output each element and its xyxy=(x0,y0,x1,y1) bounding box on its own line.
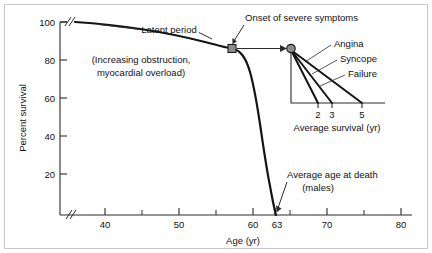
mechanism-note-line1: (Increasing obstruction, xyxy=(92,54,191,65)
y-tick-label-40: 40 xyxy=(44,131,55,142)
latent-period-label: Latent period xyxy=(141,24,196,35)
y-axis-title: Percent survival xyxy=(17,84,28,152)
y-axis-ticks xyxy=(60,22,67,174)
inset-tick-label-5: 5 xyxy=(359,109,364,120)
inset-label-angina: Angina xyxy=(334,38,364,49)
inset-origin-dot xyxy=(287,44,295,52)
inset-label-syncope: Syncope xyxy=(340,53,377,64)
onset-to-inset-connector xyxy=(237,45,287,52)
x-axis-ticks xyxy=(105,208,401,215)
y-tick-label-20: 20 xyxy=(44,169,55,180)
y-tick-label-100: 100 xyxy=(39,17,55,28)
inset-tick-label-2: 2 xyxy=(315,109,320,120)
inset-ray-failure xyxy=(291,50,318,103)
x-tick-label-50: 50 xyxy=(174,219,185,230)
mechanism-note-line2: myocardial overload) xyxy=(97,67,185,78)
average-age-death-arrow xyxy=(276,182,287,212)
inset-tick-label-3: 3 xyxy=(329,109,334,120)
survival-curve xyxy=(75,22,276,215)
x-tick-label-70: 70 xyxy=(322,219,333,230)
inset-x-axis-title: Average survival (yr) xyxy=(294,122,381,133)
inset-x-ticks xyxy=(318,103,362,108)
onset-marker-square xyxy=(228,45,236,53)
figure-container: 100 80 60 40 20 40 50 60 63 70 80 Age (y… xyxy=(0,0,432,253)
y-tick-label-80: 80 xyxy=(44,55,55,66)
average-age-death-line1: Average age at death xyxy=(287,169,378,180)
inset-label-failure: Failure xyxy=(348,68,377,79)
x-tick-label-60: 60 xyxy=(248,219,259,230)
x-tick-label-80: 80 xyxy=(396,219,407,230)
y-tick-label-60: 60 xyxy=(44,93,55,104)
x-tick-label-63: 63 xyxy=(272,219,283,230)
onset-label: Onset of severe symptoms xyxy=(245,12,358,23)
onset-arrow xyxy=(232,25,244,44)
x-tick-label-40: 40 xyxy=(100,219,111,230)
average-age-death-line2: (males) xyxy=(302,182,334,193)
chart-svg: 100 80 60 40 20 40 50 60 63 70 80 Age (y… xyxy=(0,0,432,253)
x-axis-title: Age (yr) xyxy=(226,235,260,246)
inset-chart: Angina Syncope Failure 2 3 5 Average sur… xyxy=(287,38,385,133)
